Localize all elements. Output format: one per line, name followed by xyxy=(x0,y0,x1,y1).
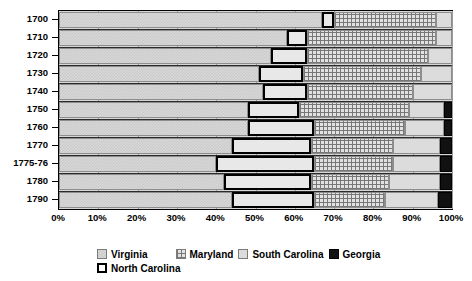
legend-entry-georgia[interactable]: Georgia xyxy=(329,244,381,257)
y-tick-label: 1775-76 xyxy=(0,158,48,168)
plot-inner xyxy=(59,11,452,209)
bar-segment-north-carolina xyxy=(263,84,306,100)
bar-segment-north-carolina xyxy=(322,12,334,28)
bar-segment-maryland xyxy=(307,30,437,46)
bar-segment-virginia xyxy=(59,156,216,172)
legend-label: North Carolina xyxy=(111,263,180,275)
bar-row xyxy=(59,101,452,119)
y-tick-label: 1710 xyxy=(0,32,48,42)
y-tick-label: 1740 xyxy=(0,86,48,96)
legend-row-1: VirginiaMarylandSouth CarolinaGeorgia xyxy=(97,244,427,258)
bar-row xyxy=(59,83,452,101)
bar-segment-virginia xyxy=(59,48,271,64)
legend-entry-maryland[interactable]: Maryland xyxy=(176,244,234,257)
row-separator xyxy=(59,47,452,48)
bar-segment-maryland xyxy=(314,156,393,172)
bar-row xyxy=(59,173,452,191)
bar-segment-maryland xyxy=(314,192,385,208)
bar-segment-south-carolina xyxy=(436,12,452,28)
x-tick-label: 100% xyxy=(431,212,471,223)
legend-swatch-northcarolina-icon xyxy=(97,263,107,273)
y-tick-label: 1750 xyxy=(0,104,48,114)
bar-segment-maryland xyxy=(334,12,436,28)
x-tick-label: 40% xyxy=(195,212,235,223)
legend-entry-virginia[interactable]: Virginia xyxy=(97,244,148,257)
bar-segment-georgia xyxy=(444,120,452,136)
x-tick-label: 90% xyxy=(392,212,432,223)
y-axis-labels: 170017101720173017401750176017701775-761… xyxy=(0,10,48,208)
bar-row xyxy=(59,119,452,137)
y-tick-label: 1700 xyxy=(0,14,48,24)
y-tick-label: 1720 xyxy=(0,50,48,60)
bar-segment-north-carolina xyxy=(271,48,306,64)
bar-segment-virginia xyxy=(59,102,248,118)
bar-segment-virginia xyxy=(59,12,322,28)
bar-segment-virginia xyxy=(59,30,287,46)
x-tick-label: 60% xyxy=(274,212,314,223)
bar-segment-maryland xyxy=(307,84,413,100)
legend-swatch-southcarolina-icon xyxy=(238,249,248,259)
bar-segment-north-carolina xyxy=(248,102,299,118)
x-tick-label: 20% xyxy=(117,212,157,223)
bar-segment-maryland xyxy=(311,138,394,154)
bar-segment-maryland xyxy=(307,48,429,64)
bar-segment-north-carolina xyxy=(216,156,314,172)
bar-segment-maryland xyxy=(299,102,409,118)
y-tick-label: 1770 xyxy=(0,140,48,150)
x-tick-label: 70% xyxy=(313,212,353,223)
legend-label: South Carolina xyxy=(252,249,323,261)
bar-segment-north-carolina xyxy=(224,174,310,190)
bar-row xyxy=(59,65,452,83)
bar-segment-north-carolina xyxy=(248,120,315,136)
bar-row xyxy=(59,11,452,29)
bar-row xyxy=(59,137,452,155)
bar-row xyxy=(59,47,452,65)
stacked-bar-chart: 170017101720173017401750176017701775-761… xyxy=(0,0,472,281)
x-tick-label: 80% xyxy=(352,212,392,223)
bar-segment-south-carolina xyxy=(393,156,440,172)
plot-area xyxy=(58,10,453,210)
bar-segment-south-carolina xyxy=(413,84,452,100)
bar-segment-virginia xyxy=(59,120,248,136)
x-tick-label: 10% xyxy=(77,212,117,223)
bar-segment-south-carolina xyxy=(393,138,440,154)
chart-legend: VirginiaMarylandSouth CarolinaGeorgia No… xyxy=(97,244,427,272)
row-separator xyxy=(59,83,452,84)
bar-segment-south-carolina xyxy=(428,48,452,64)
bar-segment-maryland xyxy=(303,66,421,82)
bar-segment-south-carolina xyxy=(389,174,440,190)
bar-row xyxy=(59,29,452,47)
bar-row xyxy=(59,155,452,173)
y-tick-label: 1760 xyxy=(0,122,48,132)
bar-segment-maryland xyxy=(314,120,404,136)
y-tick-label: 1790 xyxy=(0,194,48,204)
legend-entry-northcarolina[interactable]: North Carolina xyxy=(97,258,180,271)
legend-entry-southcarolina[interactable]: South Carolina xyxy=(238,244,323,257)
bar-segment-virginia xyxy=(59,192,232,208)
bar-segment-georgia xyxy=(440,156,452,172)
bar-segment-south-carolina xyxy=(385,192,438,208)
bar-segment-georgia xyxy=(440,138,452,154)
bar-segment-north-carolina xyxy=(287,30,307,46)
bar-segment-virginia xyxy=(59,66,259,82)
bar-segment-maryland xyxy=(311,174,390,190)
legend-label: Georgia xyxy=(343,249,381,261)
legend-swatch-georgia-icon xyxy=(329,249,339,259)
x-tick-label: 0% xyxy=(38,212,78,223)
bar-row xyxy=(59,191,452,209)
bar-segment-georgia xyxy=(444,102,452,118)
bar-segment-south-carolina xyxy=(421,66,452,82)
x-axis-labels: 0%10%20%30%40%50%60%70%80%90%100% xyxy=(58,212,451,226)
x-tick-label: 50% xyxy=(235,212,275,223)
bar-segment-virginia xyxy=(59,84,263,100)
bar-segment-north-carolina xyxy=(232,138,311,154)
legend-label: Maryland xyxy=(190,249,234,261)
x-tick-label: 30% xyxy=(156,212,196,223)
bar-segment-south-carolina xyxy=(409,102,444,118)
bar-segment-north-carolina xyxy=(259,66,302,82)
bar-segment-south-carolina xyxy=(405,120,444,136)
y-tick-label: 1730 xyxy=(0,68,48,78)
row-separator xyxy=(59,29,452,30)
row-separator xyxy=(59,65,452,66)
bar-segment-virginia xyxy=(59,174,224,190)
